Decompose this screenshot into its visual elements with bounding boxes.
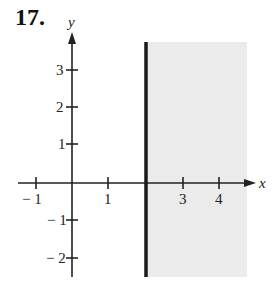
- y-axis-label: y: [66, 14, 75, 30]
- y-axis: y 3 2 1 − 1 − 2: [46, 14, 78, 277]
- y-tick-label: 2: [56, 99, 64, 115]
- x-axis-arrow-icon: [244, 179, 256, 187]
- x-tick-label: 4: [215, 191, 223, 207]
- inequality-graph: x − 1 1 3 4 y 3 2 1 − 1 − 2: [0, 0, 279, 293]
- y-tick-label: − 1: [47, 212, 67, 228]
- y-tick-label: − 2: [46, 250, 66, 266]
- x-axis-label: x: [258, 175, 266, 191]
- y-tick-label: 3: [56, 62, 64, 78]
- x-tick-label: 3: [179, 191, 187, 207]
- y-tick-label: 1: [58, 136, 66, 152]
- shaded-region: [147, 42, 247, 277]
- x-tick-label: 1: [104, 191, 112, 207]
- x-tick-label: − 1: [22, 191, 42, 207]
- y-axis-arrow-icon: [68, 32, 76, 44]
